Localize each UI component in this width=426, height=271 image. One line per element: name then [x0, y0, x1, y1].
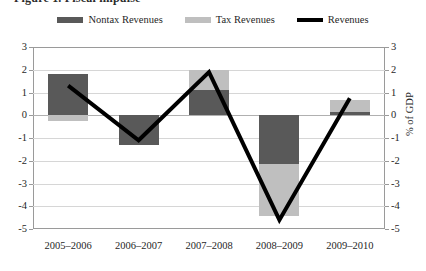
revenues-line-path	[68, 72, 350, 220]
y-tick-label-left: -5	[18, 224, 27, 235]
x-tick-label: 2005–2006	[45, 240, 92, 251]
figure-caption-clipped: Figure 1. Fiscal impulse	[14, 0, 141, 6]
axis-tick-right	[385, 93, 389, 94]
y-tick-label-right: -2	[391, 156, 400, 167]
legend-color-swatch-icon	[57, 17, 83, 23]
legend-item-2: Revenues	[297, 14, 369, 25]
y-tick-label-left: 1	[22, 88, 27, 99]
y-tick-label-left: -4	[18, 201, 27, 212]
legend-color-swatch-icon	[185, 17, 211, 23]
y-tick-label-left: 3	[22, 42, 27, 53]
plot-area: 33221100-1-1-2-2-3-3-4-4-5-5	[33, 47, 385, 229]
y-tick-label-right: -3	[391, 179, 400, 190]
y-tick-label-left: 2	[22, 65, 27, 76]
x-tick-label: 2006–2007	[115, 240, 162, 251]
line-series-revenues	[33, 47, 385, 229]
chart-legend: Nontax RevenuesTax RevenuesRevenues	[0, 14, 426, 25]
legend-item-label: Nontax Revenues	[88, 14, 162, 25]
x-tick-label: 2008–2009	[256, 240, 303, 251]
x-tick-label: 2009–2010	[326, 240, 373, 251]
axis-tick-right	[385, 115, 389, 116]
right-axis-title: % of GDP	[404, 92, 415, 136]
y-tick-label-right: -4	[391, 201, 400, 212]
axis-tick-right	[385, 47, 389, 48]
axis-tick-right	[385, 229, 389, 230]
chart-figure: Figure 1. Fiscal impulse Nontax Revenues…	[0, 0, 426, 271]
y-tick-label-right: -1	[391, 133, 400, 144]
y-tick-label-left: -2	[18, 156, 27, 167]
y-tick-label-right: 0	[391, 110, 396, 121]
x-tick-group: 2005–20062006–20072007–20082008–20092009…	[33, 240, 385, 256]
y-tick-label-right: 1	[391, 88, 396, 99]
legend-item-label: Tax Revenues	[216, 14, 275, 25]
axis-tick-right	[385, 138, 389, 139]
axis-tick-left	[29, 229, 33, 230]
axis-tick-right	[385, 70, 389, 71]
x-tick-label: 2007–2008	[185, 240, 232, 251]
y-tick-label-right: -5	[391, 224, 400, 235]
y-tick-label-left: -1	[18, 133, 27, 144]
axis-tick-right	[385, 161, 389, 162]
legend-item-1: Tax Revenues	[185, 14, 275, 25]
axis-tick-right	[385, 206, 389, 207]
legend-item-0: Nontax Revenues	[57, 14, 162, 25]
legend-line-swatch-icon	[297, 18, 323, 22]
axis-tick-right	[385, 184, 389, 185]
y-tick-label-left: -3	[18, 179, 27, 190]
legend-item-label: Revenues	[328, 14, 369, 25]
y-tick-label-left: 0	[22, 110, 27, 121]
y-tick-label-right: 2	[391, 65, 396, 76]
y-tick-label-right: 3	[391, 42, 396, 53]
